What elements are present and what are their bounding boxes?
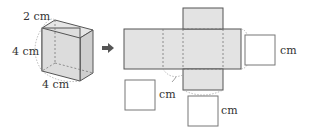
answer-box-bottom-left[interactable] [125, 80, 155, 110]
answer-box-bottom[interactable] [188, 96, 218, 126]
height-label: 4 cm [12, 45, 40, 58]
cuboid-net-diagram: 2 cm 4 cm 4 cm cm cm cm [0, 0, 310, 137]
depth-label: 2 cm [23, 10, 51, 23]
width-label: 4 cm [42, 78, 70, 91]
answer-unit-right: cm [280, 44, 297, 57]
answer-unit-bottom-left: cm [159, 88, 176, 101]
answer-box-right[interactable] [245, 35, 275, 65]
cuboid [35, 19, 93, 82]
right-arrow-icon [102, 43, 114, 53]
answer-unit-bottom: cm [221, 104, 238, 117]
